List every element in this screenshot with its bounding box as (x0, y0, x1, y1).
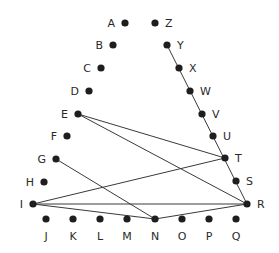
edge-i-t (33, 158, 225, 204)
node-label: Q (232, 230, 241, 243)
node-label: B (95, 39, 103, 52)
node-label: T (234, 152, 242, 165)
node-v: V (198, 108, 220, 121)
node-dot-icon (163, 41, 170, 48)
node-g: G (37, 153, 59, 166)
node-dot-icon (121, 19, 128, 26)
node-w: W (186, 85, 211, 98)
node-label: N (151, 230, 159, 243)
node-j: J (42, 215, 49, 243)
node-label: X (189, 62, 197, 75)
node-dot-icon (74, 110, 81, 117)
node-a: A (107, 17, 128, 30)
node-u: U (209, 130, 231, 143)
node-label: L (97, 230, 104, 243)
node-label: V (212, 108, 220, 121)
node-z: Z (151, 17, 173, 30)
node-y: Y (163, 39, 184, 52)
node-label: U (223, 130, 231, 143)
node-dot-icon (198, 110, 205, 117)
node-dot-icon (175, 64, 182, 71)
node-o: O (178, 215, 187, 243)
edge-e-t (78, 114, 225, 158)
node-dot-icon (96, 215, 103, 222)
node-dot-icon (221, 154, 228, 161)
node-dot-icon (97, 64, 104, 71)
node-label: P (206, 230, 213, 243)
node-n: N (151, 215, 159, 243)
node-label: G (37, 153, 46, 166)
node-label: I (20, 198, 23, 211)
node-k: K (69, 215, 77, 243)
node-dot-icon (69, 215, 76, 222)
node-dot-icon (85, 87, 92, 94)
node-s: S (232, 175, 253, 188)
edge-g-n (56, 159, 155, 219)
node-dot-icon (151, 215, 158, 222)
node-dot-icon (151, 19, 158, 26)
node-x: X (175, 62, 197, 75)
node-label: M (122, 230, 132, 243)
node-dot-icon (40, 178, 47, 185)
node-label: E (61, 108, 68, 121)
letter-graph-diagram: ABCDEFGHIJKLMNOPQRSTUVWXYZ (0, 0, 279, 253)
node-dot-icon (42, 215, 49, 222)
node-label: J (43, 230, 47, 243)
node-label: H (26, 176, 34, 189)
node-dot-icon (52, 155, 59, 162)
node-h: H (26, 176, 48, 189)
node-label: S (246, 175, 253, 188)
node-p: P (205, 215, 212, 243)
node-m: M (122, 215, 132, 243)
node-label: C (83, 62, 91, 75)
nodes-layer: ABCDEFGHIJKLMNOPQRSTUVWXYZ (20, 17, 265, 243)
node-b: B (95, 39, 116, 52)
node-label: R (257, 198, 265, 211)
node-dot-icon (209, 132, 216, 139)
node-label: A (107, 17, 115, 30)
node-dot-icon (205, 215, 212, 222)
node-c: C (83, 62, 104, 75)
node-t: T (221, 152, 242, 165)
node-label: O (178, 230, 187, 243)
node-dot-icon (123, 215, 130, 222)
node-i: I (20, 198, 37, 211)
node-dot-icon (186, 87, 193, 94)
node-dot-icon (29, 200, 36, 207)
node-dot-icon (243, 200, 250, 207)
node-label: K (69, 230, 77, 243)
node-dot-icon (63, 132, 70, 139)
node-l: L (96, 215, 104, 243)
node-dot-icon (232, 177, 239, 184)
node-label: Y (176, 39, 184, 52)
node-dot-icon (232, 215, 239, 222)
node-r: R (243, 198, 265, 211)
node-dot-icon (178, 215, 185, 222)
edges-layer (33, 45, 247, 219)
node-label: F (51, 130, 57, 143)
node-q: Q (232, 215, 241, 243)
node-dot-icon (109, 41, 116, 48)
node-label: W (200, 85, 211, 98)
node-label: D (71, 85, 79, 98)
node-d: D (71, 85, 93, 98)
node-f: F (51, 130, 71, 143)
node-e: E (61, 108, 82, 121)
edge-i-n (33, 204, 155, 219)
node-label: Z (165, 17, 173, 30)
